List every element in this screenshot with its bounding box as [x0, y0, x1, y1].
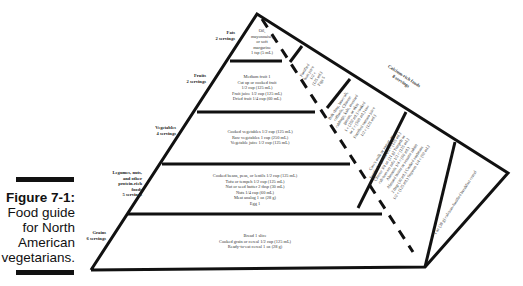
group-label-fats: Fats 2 servings — [200, 30, 235, 41]
band-text-grains: Bread 1 slice Cooked grain or cereal 1/2… — [195, 233, 315, 250]
group-label-vegetables: Vegetables 4 servings — [140, 125, 176, 136]
group-label-legumes: Legumes, nuts, and other protein-rich fo… — [100, 170, 142, 198]
group-label-fruits: Fruits 2 servings — [170, 73, 206, 84]
band-text-vegetables: Cooked vegetables 1/2 cup (125 mL) Raw v… — [210, 129, 310, 146]
band-text-fruits: Medium fruit 1 Cut up or cooked fruit 1/… — [222, 74, 292, 102]
calcium-divider-1 — [290, 46, 302, 62]
band-text-fats: Oil, mayonnaise, or soft margarine 1 tsp… — [237, 28, 287, 56]
group-label-grains: Grains 6 servings — [70, 230, 106, 241]
band-text-legumes: Cooked beans, peas, or lentils 1/2 cup (… — [195, 173, 315, 207]
